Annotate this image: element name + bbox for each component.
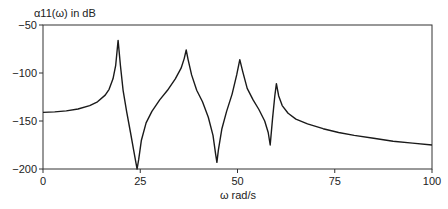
x-tick-label: 25 [134,175,146,187]
x-axis-title: ω rad/s [220,189,257,201]
y-tick-label: −50 [18,19,37,31]
x-axis-ticks: 0255075100 [40,169,441,187]
x-tick-label: 75 [329,175,341,187]
y-axis-ticks: −50−100−150−200 [12,19,43,175]
y-tick-label: −150 [12,115,37,127]
x-tick-label: 100 [423,175,441,187]
x-tick-label: 0 [40,175,46,187]
series-line-alpha11 [43,40,432,169]
x-tick-label: 50 [231,175,243,187]
plot-frame [43,25,432,169]
y-tick-label: −200 [12,163,37,175]
y-axis-title: α11(ω) in dB [34,7,96,19]
y-tick-label: −100 [12,67,37,79]
frf-chart: α11(ω) in dB 0255075100 −50−100−150−200 … [0,0,448,209]
